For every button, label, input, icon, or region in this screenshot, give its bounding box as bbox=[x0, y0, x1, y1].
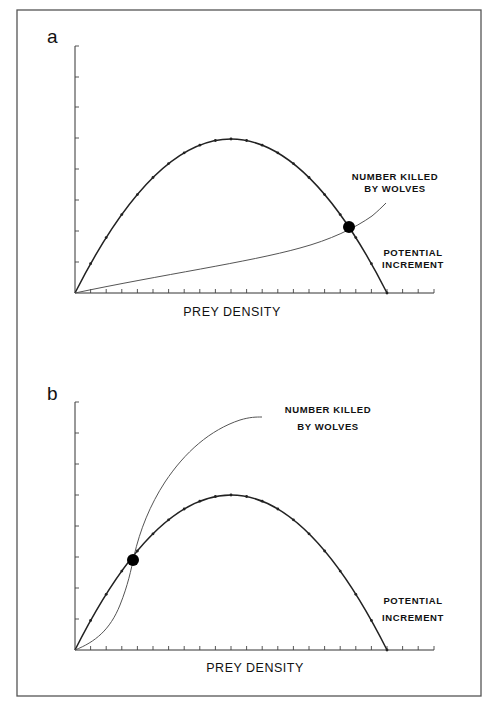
panel-a-label: a bbox=[47, 26, 58, 47]
panel-b-y-ticks bbox=[75, 402, 79, 619]
panel-a-killed-label-line2: BY WOLVES bbox=[364, 183, 426, 194]
panel-b-increment-label-line2: INCREMENT bbox=[382, 612, 444, 623]
panel-a-x-axis-label: PREY DENSITY bbox=[183, 305, 281, 319]
panel-b-equilibrium-point bbox=[127, 554, 139, 566]
panel-a-number-killed-curve bbox=[75, 203, 386, 293]
panel-a-y-ticks bbox=[75, 46, 79, 262]
panel-a: a bbox=[47, 26, 444, 319]
figure-frame bbox=[17, 10, 481, 696]
panel-a-x-ticks bbox=[91, 289, 434, 293]
panel-b-x-axis-label: PREY DENSITY bbox=[206, 661, 304, 675]
panel-a-potential-increment-markers bbox=[89, 138, 388, 295]
panel-b-potential-increment-markers bbox=[89, 494, 388, 652]
panel-b-x-ticks bbox=[91, 646, 434, 650]
panel-b: b bbox=[47, 383, 444, 675]
panel-b-increment-label-line1: POTENTIAL bbox=[383, 595, 442, 606]
panel-a-increment-label-line2: INCREMENT bbox=[382, 259, 444, 270]
panel-b-killed-label-line2: BY WOLVES bbox=[297, 421, 359, 432]
panel-a-equilibrium-point bbox=[343, 221, 355, 233]
panel-a-killed-label-line1: NUMBER KILLED bbox=[352, 171, 438, 182]
panel-b-potential-increment-curve bbox=[75, 495, 387, 650]
panel-a-increment-label-line1: POTENTIAL bbox=[383, 247, 442, 258]
figure-canvas: a bbox=[0, 0, 496, 714]
panel-b-label: b bbox=[47, 383, 58, 404]
panel-b-killed-label-line1: NUMBER KILLED bbox=[285, 404, 371, 415]
panel-b-number-killed-curve bbox=[75, 417, 262, 650]
